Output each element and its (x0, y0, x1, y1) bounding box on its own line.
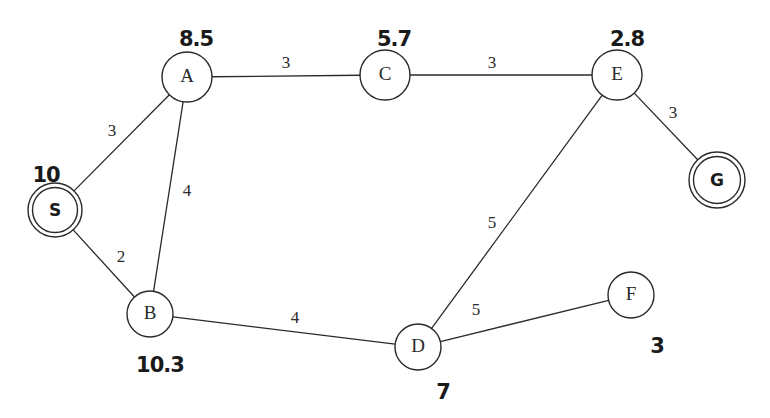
heuristics-layer: 108.55.72.810.373 (32, 27, 663, 404)
heuristic-value-f: 3 (650, 334, 664, 358)
node-c: C (360, 50, 410, 100)
node-f: F (608, 272, 654, 318)
edge-weight-d-f: 5 (472, 300, 481, 319)
heuristic-value-s: 10 (32, 163, 60, 187)
nodes-layer: SACEGBDF (28, 50, 745, 370)
heuristic-value-c: 5.7 (377, 27, 411, 51)
edge-a-c (212, 75, 360, 76)
heuristic-value-e: 2.8 (610, 27, 645, 51)
edge-weight-c-e: 3 (488, 53, 497, 72)
edge-e-g (634, 93, 697, 160)
edge-s-b (73, 230, 134, 297)
node-label: B (144, 302, 157, 323)
node-label: E (611, 63, 623, 84)
node-b: B (127, 291, 173, 337)
node-d: D (395, 324, 441, 370)
node-label: D (411, 335, 425, 356)
edge-weight-a-b: 4 (183, 181, 192, 200)
heuristic-value-d: 7 (436, 380, 450, 404)
search-graph-diagram: 324333545 SACEGBDF 108.55.72.810.373 (0, 0, 770, 418)
node-label: F (626, 283, 637, 304)
node-label: G (710, 170, 724, 190)
edge-weight-b-d: 4 (291, 308, 300, 327)
edge-weight-e-d: 5 (488, 213, 497, 232)
edge-weight-s-a: 3 (108, 121, 117, 140)
node-label: C (379, 63, 392, 84)
edge-e-d (432, 95, 603, 328)
heuristic-value-a: 8.5 (179, 27, 214, 51)
edge-a-b (154, 102, 184, 292)
edge-d-f (440, 300, 608, 341)
node-e: E (592, 50, 642, 100)
node-label: S (49, 200, 61, 220)
edge-weight-e-g: 3 (669, 103, 678, 122)
edge-b-d (173, 317, 395, 344)
node-g: G (689, 152, 745, 208)
node-s: S (28, 183, 82, 237)
node-label: A (180, 65, 194, 86)
edge-weight-a-c: 3 (282, 53, 291, 72)
edge-s-a (74, 95, 169, 191)
edge-weight-s-b: 2 (117, 247, 126, 266)
heuristic-value-b: 10.3 (136, 353, 184, 377)
node-a: A (162, 52, 212, 102)
